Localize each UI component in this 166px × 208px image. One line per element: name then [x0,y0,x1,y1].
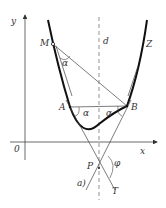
point-m [51,42,54,45]
point-a [69,106,71,108]
label-alpha-b: α [106,108,112,118]
figure-caption: a) [77,178,86,188]
label-alpha-m: α [62,58,68,68]
point-p [98,167,100,169]
parabola-diagram: y x 0 d Z M A B P T α α α φ a) [0,0,166,208]
label-a: A [58,102,66,112]
label-z: Z [145,39,153,49]
line-mb [53,44,127,106]
label-b: B [130,102,138,112]
label-d: d [103,36,109,46]
label-t: T [112,186,119,196]
parabola-curve-z [48,20,147,129]
label-alpha-a: α [83,108,89,118]
tangent-b [128,66,138,96]
point-b [126,105,128,107]
label-m: M [39,38,50,48]
label-phi: φ [114,158,121,168]
label-p: P [86,161,94,171]
label-origin: 0 [14,144,20,154]
angle-arc-phi [108,156,113,178]
label-x: x [140,146,145,156]
angle-arc-a [75,107,79,116]
label-y: y [10,16,17,26]
chord-ab [70,106,127,107]
